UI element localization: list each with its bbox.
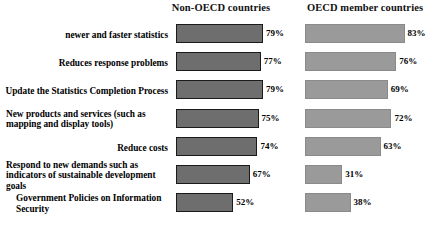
bar-oecd [305,52,396,71]
bar-value-oecd: 38% [351,193,372,212]
bar-group-oecd: 69% [305,80,409,99]
chart-row: Update the Statistics Completion Process… [0,80,439,108]
bar-group-oecd: 76% [305,52,417,71]
bar-value-non-oecd: 67% [250,165,271,184]
bar-value-non-oecd: 79% [263,80,284,99]
bar-non-oecd [176,137,257,156]
bar-oecd [305,109,391,128]
chart-row: Government Policies on Information Secur… [0,193,439,221]
bar-group-non-oecd: 79% [176,24,284,43]
bar-group-non-oecd: 75% [176,109,280,128]
row-label: Reduces response problems [2,58,168,68]
bar-group-oecd: 63% [305,137,402,156]
bar-non-oecd [176,109,259,128]
row-label: New products and services (such as mappi… [2,109,168,130]
column-header-non-oecd: Non-OECD countries [156,2,286,13]
bar-value-non-oecd: 75% [259,109,280,128]
bar-value-non-oecd: 52% [233,193,254,212]
bar-non-oecd [176,165,250,184]
bar-group-oecd: 72% [305,109,412,128]
bar-oecd [305,80,388,99]
row-label: newer and faster statistics [2,30,168,40]
bar-non-oecd [176,80,263,99]
bar-group-oecd: 31% [305,165,363,184]
bar-value-oecd: 72% [391,109,412,128]
bar-value-oecd: 31% [342,165,363,184]
chart-row: newer and faster statistics79%83% [0,24,439,52]
row-label: Government Policies on Information Secur… [2,193,168,214]
bar-group-oecd: 83% [305,24,426,43]
chart-row: New products and services (such as mappi… [0,109,439,137]
chart-row: Reduces response problems77%76% [0,52,439,80]
bar-oecd [305,24,405,43]
row-label: Respond to new demands such as indicator… [2,160,168,191]
row-label: Update the Statistics Completion Process [2,86,168,96]
bar-group-oecd: 38% [305,193,372,212]
bar-value-oecd: 83% [405,24,426,43]
bar-group-non-oecd: 67% [176,165,271,184]
bar-value-oecd: 63% [381,137,402,156]
bar-value-non-oecd: 77% [261,52,282,71]
bar-group-non-oecd: 77% [176,52,282,71]
bar-value-oecd: 76% [396,52,417,71]
bar-value-non-oecd: 79% [263,24,284,43]
chart-row: Respond to new demands such as indicator… [0,165,439,193]
bar-non-oecd [176,193,233,212]
bar-non-oecd [176,24,263,43]
bar-oecd [305,165,342,184]
bar-group-non-oecd: 52% [176,193,254,212]
bar-oecd [305,193,351,212]
bar-group-non-oecd: 79% [176,80,284,99]
bar-value-non-oecd: 74% [257,137,278,156]
column-header-oecd: OECD member countries [296,2,434,13]
bar-group-non-oecd: 74% [176,137,278,156]
grouped-bar-chart: Non-OECD countries OECD member countries… [0,0,439,232]
bar-non-oecd [176,52,261,71]
bar-oecd [305,137,381,156]
bar-value-oecd: 69% [388,80,409,99]
row-label: Reduce costs [2,143,168,153]
